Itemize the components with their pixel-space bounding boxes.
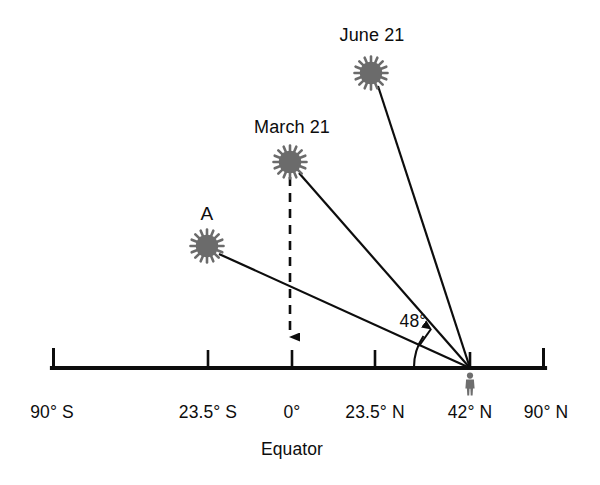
axis-label-90-s: 90° S [30, 402, 74, 423]
axis-label-90-n: 90° N [524, 402, 568, 423]
sun-june21 [355, 57, 388, 90]
sun-label-june21: June 21 [340, 25, 405, 46]
latitude-axis [52, 348, 545, 368]
sun-label-march21: March 21 [254, 117, 330, 138]
equator-label: Equator [261, 439, 323, 460]
ray-sun-a [219, 254, 470, 368]
solar-altitude-diagram: June 21 March 21 A 48° 90° S 23.5° S 0° … [0, 0, 600, 485]
sun-label-a: A [201, 203, 214, 225]
ray-march21 [299, 173, 470, 368]
angle-arc-arrow [419, 329, 431, 346]
axis-label-23-5-n: 23.5° N [345, 402, 404, 423]
observer-figure [465, 373, 474, 396]
axis-label-0: 0° [284, 402, 301, 423]
axis-label-23-5-s: 23.5° S [179, 402, 237, 423]
sun-a [191, 230, 224, 263]
sun-march21 [274, 146, 307, 179]
angle-label-48: 48° [400, 311, 427, 332]
axis-label-42-n: 42° N [448, 402, 492, 423]
